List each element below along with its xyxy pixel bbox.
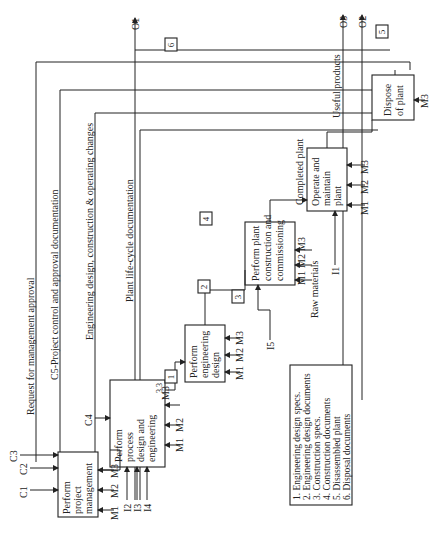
- svg-text:2. Engineering design document: 2. Engineering design documents: [302, 373, 312, 500]
- svg-text:Completed plant: Completed plant: [294, 138, 305, 205]
- svg-text:design: design: [210, 352, 221, 378]
- svg-text:C3: C3: [8, 450, 19, 462]
- svg-text:M2: M2: [174, 418, 185, 432]
- svg-text:3: 3: [233, 294, 243, 299]
- activity-box-a6[interactable]: [372, 75, 414, 120]
- svg-text:Perform: Perform: [61, 481, 72, 514]
- svg-text:M3: M3: [160, 386, 171, 400]
- svg-text:I1: I1: [330, 267, 341, 275]
- svg-text:4. Construction documents: 4. Construction documents: [322, 398, 332, 500]
- svg-text:process: process: [124, 432, 135, 462]
- svg-text:Request for management approva: Request for management approval: [25, 277, 36, 415]
- svg-text:M3: M3: [234, 331, 245, 345]
- svg-text:management: management: [83, 463, 94, 514]
- svg-text:design and: design and: [135, 419, 146, 462]
- svg-text:C1: C1: [18, 486, 29, 498]
- svg-text:project: project: [72, 486, 83, 514]
- svg-text:Plant life-cycle documentation: Plant life-cycle documentation: [124, 179, 135, 302]
- svg-text:5: 5: [377, 29, 387, 34]
- svg-text:M2: M2: [234, 348, 245, 362]
- svg-text:M1: M1: [234, 366, 245, 380]
- a5-a6-link: [327, 120, 372, 148]
- svg-text:M1: M1: [296, 271, 307, 285]
- idef0-diagram: 1 2 3 4 5 6 Perform project management P…: [0, 0, 432, 535]
- svg-text:M3: M3: [359, 160, 370, 174]
- svg-text:engineering: engineering: [199, 331, 210, 378]
- svg-text:M2: M2: [109, 484, 120, 498]
- svg-text:Perform: Perform: [188, 345, 199, 378]
- svg-text:of plant: of plant: [394, 85, 405, 116]
- svg-text:engineering: engineering: [146, 415, 157, 462]
- svg-text:1: 1: [166, 375, 176, 380]
- svg-text:C5-Project control and approva: C5-Project control and approval document…: [49, 189, 60, 380]
- svg-text:6. Disposal documents: 6. Disposal documents: [342, 413, 352, 500]
- svg-text:6: 6: [166, 42, 176, 47]
- svg-text:M2: M2: [359, 180, 370, 194]
- svg-text:maintain: maintain: [321, 171, 332, 206]
- svg-text:2: 2: [199, 285, 209, 290]
- svg-text:M3: M3: [296, 237, 307, 251]
- svg-text:Perform plant: Perform plant: [250, 226, 261, 281]
- svg-text:O2: O2: [357, 16, 368, 28]
- svg-text:Raw materials: Raw materials: [309, 260, 320, 318]
- svg-text:M3: M3: [109, 464, 120, 478]
- svg-text:5. Disassembled plant: 5. Disassembled plant: [332, 416, 342, 500]
- svg-text:3. Construction specs.: 3. Construction specs.: [312, 416, 322, 500]
- svg-text:O3: O3: [338, 16, 349, 28]
- icom-labels: C1 C2 C3 C4 I2 I3 I4 I5 I1 O1 O3 O2 M1 M…: [8, 16, 430, 520]
- svg-text:4: 4: [201, 216, 211, 221]
- svg-text:I5: I5: [265, 342, 276, 350]
- svg-text:M1: M1: [109, 506, 120, 520]
- svg-text:Perform: Perform: [113, 429, 124, 462]
- svg-text:C2: C2: [18, 463, 29, 475]
- svg-text:M1: M1: [359, 201, 370, 215]
- svg-text:O1: O1: [130, 18, 141, 30]
- svg-text:construction and: construction and: [262, 215, 273, 281]
- svg-text:Useful products: Useful products: [331, 54, 342, 118]
- svg-text:M1: M1: [174, 438, 185, 452]
- svg-text:C4: C4: [83, 414, 94, 426]
- svg-text:Operate and: Operate and: [310, 157, 321, 206]
- svg-text:M3: M3: [419, 94, 430, 108]
- svg-text:Engineering design, constructi: Engineering design, construction & opera…: [84, 123, 95, 340]
- svg-text:plant: plant: [332, 186, 343, 206]
- svg-text:1. Engineering design specs.: 1. Engineering design specs.: [292, 392, 302, 500]
- svg-text:Dispose: Dispose: [382, 83, 393, 116]
- svg-text:I4: I4: [142, 504, 153, 512]
- svg-text:commissioning: commissioning: [274, 220, 285, 281]
- svg-text:M2: M2: [296, 254, 307, 268]
